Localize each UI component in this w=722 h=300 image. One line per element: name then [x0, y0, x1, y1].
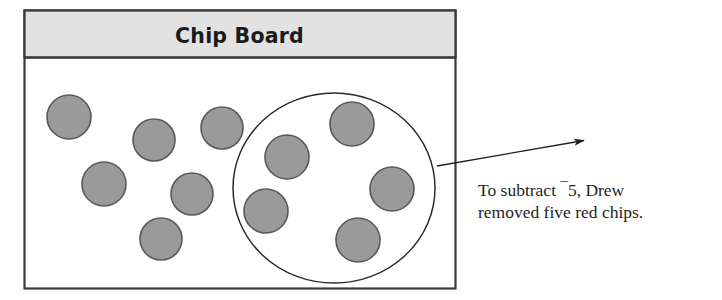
- chip-5[interactable]: [171, 173, 213, 215]
- caption-line-1-suffix: , Drew: [577, 180, 625, 200]
- caption: To subtract ¯5, Drew removed five red ch…: [478, 179, 643, 223]
- caption-line-1-value: 5: [568, 180, 577, 200]
- caption-line-1-prefix: To subtract: [478, 180, 560, 200]
- chip-board: Chip Board: [25, 11, 456, 289]
- board-title: Chip Board: [175, 24, 304, 48]
- chip-10[interactable]: [370, 167, 414, 211]
- chip-4[interactable]: [82, 162, 126, 206]
- figure-canvas: Chip Board: [0, 0, 722, 300]
- chip-9[interactable]: [244, 189, 288, 233]
- chip-7[interactable]: [265, 135, 309, 179]
- chip-8[interactable]: [330, 102, 374, 146]
- chip-2[interactable]: [133, 119, 175, 161]
- caption-line-1: To subtract ¯5, Drew: [478, 179, 625, 201]
- chip-3[interactable]: [201, 107, 243, 149]
- leader-arrow: [437, 141, 584, 167]
- chip-6[interactable]: [140, 218, 182, 260]
- caption-line-2: removed five red chips.: [478, 202, 643, 222]
- chip-1[interactable]: [47, 95, 91, 139]
- chip-11[interactable]: [336, 218, 380, 262]
- chip-board-figure: Chip Board: [0, 0, 722, 300]
